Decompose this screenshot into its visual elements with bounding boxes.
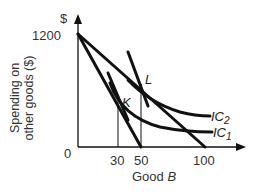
svg-text:Spending on: Spending on — [8, 63, 22, 133]
x-tick-30: 30 — [110, 153, 124, 168]
y-tick-1200: 1200 — [32, 28, 61, 43]
x-tick-100: 100 — [193, 153, 215, 168]
ic2-label: IC2 — [211, 109, 230, 126]
indifference-curve-chart: $ 1200 0 30 50 100 Good B Spending on ot… — [0, 0, 256, 194]
origin-label: 0 — [64, 146, 71, 161]
budget-line-1 — [78, 34, 141, 147]
ic1-label: IC1 — [213, 125, 232, 142]
point-l-label: L — [145, 72, 152, 87]
x-axis-label: Good B — [132, 169, 176, 184]
point-k-label: K — [122, 95, 132, 110]
svg-text:other goods ($): other goods ($) — [22, 56, 36, 141]
y-axis-label: Spending on other goods ($) — [8, 56, 36, 141]
drop-lines — [118, 84, 141, 147]
x-tick-50: 50 — [134, 153, 148, 168]
y-axis-unit: $ — [60, 11, 68, 26]
y-axis-arrow-icon — [74, 14, 82, 24]
x-axis-arrow-icon — [236, 143, 246, 151]
